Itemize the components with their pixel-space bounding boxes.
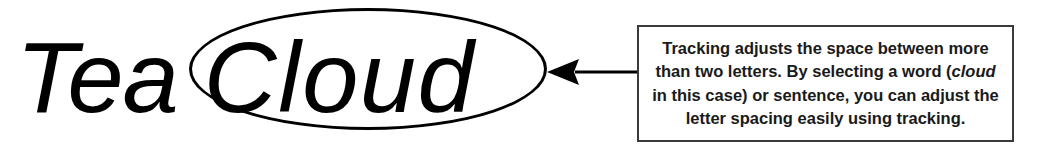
caption-line-3: in this case) or sentence, you can adjus… xyxy=(652,84,999,107)
caption-italic-word: cloud xyxy=(952,62,996,80)
caption-line-2-text: than two letters. By selecting a word ( xyxy=(655,62,951,80)
arrow-head xyxy=(547,59,579,85)
sample-word-plain: Tea xyxy=(16,27,178,128)
caption-line-2: than two letters. By selecting a word (c… xyxy=(652,60,999,83)
arrow-left-icon xyxy=(545,52,641,92)
caption-box: Tracking adjusts the space between more … xyxy=(637,25,1014,142)
sample-text: Tea Cloud xyxy=(16,0,475,155)
caption-line-4: letter spacing easily using tracking. xyxy=(652,107,999,130)
tracking-example-figure: Tea Cloud Tracking adjusts the space bet… xyxy=(0,0,1043,155)
caption-line-1: Tracking adjusts the space between more xyxy=(652,37,999,60)
sample-word-tracked: Cloud xyxy=(204,27,475,128)
caption-text: Tracking adjusts the space between more … xyxy=(638,37,1013,131)
